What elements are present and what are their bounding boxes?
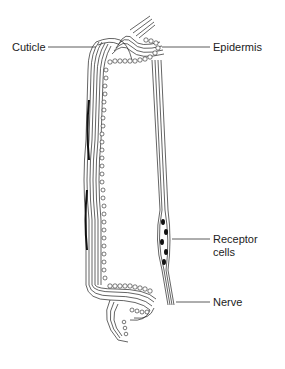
cuticle-label: Cuticle <box>12 41 46 54</box>
epidermis-cells <box>100 38 160 336</box>
receptor-cells-label-line1: Receptor <box>213 233 258 246</box>
nerve-label: Nerve <box>213 296 242 309</box>
bottom-cell-row <box>108 284 152 336</box>
receptor-nerve-strands <box>152 60 174 305</box>
receptor-cells-label-line2: cells <box>213 246 235 259</box>
epidermis-label: Epidermis <box>213 41 262 54</box>
sensillum-diagram <box>0 0 285 369</box>
